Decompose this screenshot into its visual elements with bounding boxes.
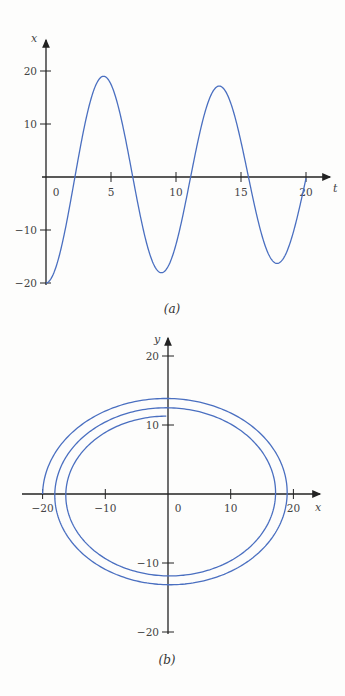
- y-tick-label: 10: [146, 419, 159, 431]
- x-tick-label: −20: [32, 502, 54, 514]
- x-tick-label: 0: [175, 502, 182, 514]
- x-tick-label: 20: [299, 186, 312, 198]
- x-tick-label: 10: [169, 186, 182, 198]
- y-tick-label: −20: [15, 277, 37, 289]
- y-axis-label: x: [31, 32, 38, 45]
- y-tick-label: −20: [137, 626, 159, 638]
- x-axis-ticks: 05101520: [53, 172, 313, 198]
- x-tick-label: 15: [234, 186, 247, 198]
- chart-b-caption: (b): [158, 653, 175, 667]
- y-axis-label: y: [153, 333, 161, 346]
- x-tick-label: 20: [287, 502, 300, 514]
- chart-a-caption: (a): [164, 302, 181, 316]
- x-tick-label: −10: [94, 502, 116, 514]
- y-tick-label: 10: [24, 118, 37, 130]
- y-tick-label: 20: [24, 65, 37, 77]
- chart-b-phase-plane: −20−1001020 2010−10−20 x y (b): [0, 320, 345, 696]
- y-tick-label: −10: [137, 557, 159, 569]
- chart-a-time-series: 05101520 2010−10−20 t x (a): [0, 0, 345, 320]
- y-tick-label: −10: [15, 224, 37, 236]
- phase-spiral-curve: [43, 398, 288, 584]
- x-tick-label: 5: [108, 186, 115, 198]
- y-tick-label: 20: [146, 350, 159, 362]
- x-tick-label: 10: [224, 502, 237, 514]
- x-axis-label: x: [315, 501, 322, 514]
- x-axis-label: t: [333, 182, 338, 195]
- x-tick-label: 0: [53, 186, 60, 198]
- x-axis-ticks: −20−1001020: [32, 489, 301, 514]
